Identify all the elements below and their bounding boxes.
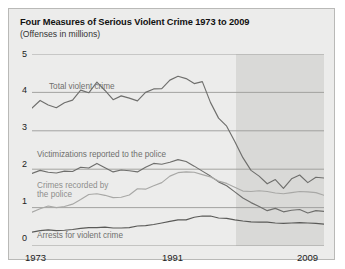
- y-tick-0: 0: [11, 233, 27, 243]
- x-tick-1973: 1973: [25, 252, 46, 263]
- y-tick-3: 3: [11, 122, 27, 132]
- y-tick-4: 4: [11, 85, 27, 95]
- chart-title: Four Measures of Serious Violent Crime 1…: [20, 17, 249, 27]
- y-tick-5: 5: [11, 49, 27, 59]
- chart-figure: Four Measures of Serious Violent Crime 1…: [8, 8, 335, 260]
- chart-subtitle: (Offenses in millions): [20, 29, 100, 39]
- y-tick-2: 2: [11, 159, 27, 169]
- series-label-victimizations: Victimizations reported to the police: [37, 150, 166, 160]
- y-tick-1: 1: [11, 196, 27, 206]
- series-label-total: Total violent crime: [49, 82, 115, 92]
- series-label-recorded-2: the police: [37, 190, 72, 200]
- x-tick-2009: 2009: [297, 252, 318, 263]
- x-tick-1991: 1991: [162, 252, 183, 263]
- series-label-arrests: Arrests for violent crime: [37, 231, 123, 241]
